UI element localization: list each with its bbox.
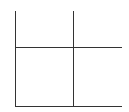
quadrant-bottom-right <box>74 48 121 106</box>
quadrant-diagram <box>0 0 129 112</box>
quadrant-top-right <box>74 11 121 47</box>
bottom-axis-line <box>15 106 122 107</box>
quadrant-top-left <box>16 11 73 47</box>
quadrant-bottom-left <box>16 48 73 106</box>
